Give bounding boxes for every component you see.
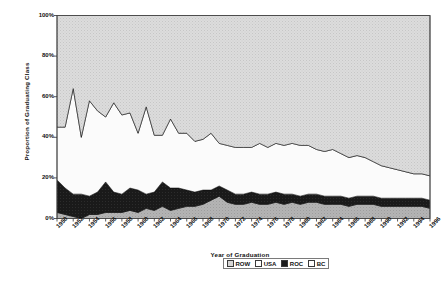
x-tick-label: 1950 — [55, 215, 69, 229]
legend-swatch-icon — [308, 260, 315, 267]
x-tick-label: 1976 — [266, 215, 280, 229]
x-tick-label: 1954 — [87, 215, 101, 229]
legend-item-usa[interactable]: USA — [255, 260, 276, 267]
legend-item-bc[interactable]: BC — [308, 260, 325, 267]
legend-swatch-icon — [255, 260, 262, 267]
x-tick-label: 1952 — [71, 215, 85, 229]
legend-swatch-icon — [227, 260, 234, 267]
x-tick-label: 1974 — [250, 215, 264, 229]
x-tick-label: 1994 — [412, 215, 426, 229]
x-tick-label: 1958 — [120, 215, 134, 229]
y-axis-title: Proportion of Graduating Class — [23, 42, 30, 182]
stacked-area-chart: 0%20%40%60%80%100% 195019521954195619581… — [0, 0, 447, 292]
x-tick-label: 1984 — [331, 215, 345, 229]
legend-swatch-icon — [281, 260, 288, 267]
legend-label: USA — [264, 261, 277, 267]
x-axis-title: Year of Graduation — [180, 251, 300, 258]
legend-item-roc[interactable]: ROC — [281, 260, 303, 267]
x-tick-label: 1978 — [282, 215, 296, 229]
x-tick-label: 1982 — [314, 215, 328, 229]
x-axis-tick-labels: 1950195219541956195819601962196419661968… — [0, 0, 447, 292]
x-tick-label: 1964 — [169, 215, 183, 229]
x-tick-label: 1990 — [379, 215, 393, 229]
legend-item-row[interactable]: ROW — [227, 260, 250, 267]
x-tick-label: 1996 — [428, 215, 442, 229]
x-tick-label: 1992 — [396, 215, 410, 229]
x-tick-label: 1972 — [233, 215, 247, 229]
x-tick-label: 1956 — [104, 215, 118, 229]
x-tick-label: 1966 — [185, 215, 199, 229]
x-tick-label: 1968 — [201, 215, 215, 229]
chart-legend[interactable]: ROWUSAROCBC — [223, 258, 329, 269]
x-tick-label: 1986 — [347, 215, 361, 229]
x-tick-label: 1980 — [298, 215, 312, 229]
legend-label: ROC — [290, 261, 303, 267]
legend-label: BC — [317, 261, 326, 267]
x-tick-label: 1962 — [152, 215, 166, 229]
x-tick-label: 1988 — [363, 215, 377, 229]
x-tick-label: 1970 — [217, 215, 231, 229]
legend-label: ROW — [236, 261, 251, 267]
x-tick-label: 1960 — [136, 215, 150, 229]
